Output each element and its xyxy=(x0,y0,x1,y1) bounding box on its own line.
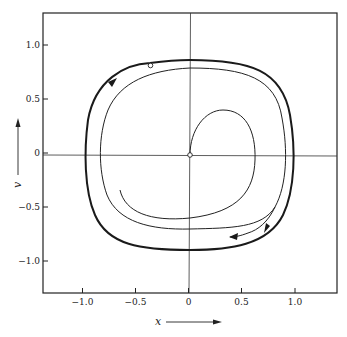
svg-text:0.5: 0.5 xyxy=(26,94,41,104)
svg-text:1.0: 1.0 xyxy=(288,297,303,307)
svg-text:−0.5: −0.5 xyxy=(125,297,147,307)
svg-text:−1.0: −1.0 xyxy=(72,297,94,307)
origin-marker xyxy=(188,153,193,158)
arrow-lower-inner-icon xyxy=(229,233,238,240)
svg-text:−1.0: −1.0 xyxy=(18,256,40,266)
x-tick-labels: −1.0 −0.5 0 0.5 1.0 xyxy=(72,297,303,307)
svg-text:0: 0 xyxy=(186,297,192,307)
svg-text:0.5: 0.5 xyxy=(234,297,249,307)
y-ticks xyxy=(43,45,48,261)
start-point-marker xyxy=(148,63,153,68)
phase-portrait-figure: 1.0 0.5 0 −0.5 −1.0 −1.0 −0.5 0 0.5 1.0 … xyxy=(0,0,347,337)
x-axis-label: x xyxy=(155,315,162,328)
x-ticks xyxy=(83,288,296,293)
svg-text:0: 0 xyxy=(34,148,40,158)
y-tick-labels: 1.0 0.5 0 −0.5 −1.0 xyxy=(18,40,40,266)
y-axis-arrow-icon xyxy=(16,118,21,127)
y-axis-label-group: v xyxy=(11,118,24,188)
x-axis-label-group: x xyxy=(155,315,222,328)
svg-text:−0.5: −0.5 xyxy=(18,202,40,212)
y-axis-label: v xyxy=(11,181,24,188)
x-axis-arrow-icon xyxy=(213,320,222,325)
svg-text:1.0: 1.0 xyxy=(26,40,41,50)
origin-trajectory-curve xyxy=(120,110,255,219)
